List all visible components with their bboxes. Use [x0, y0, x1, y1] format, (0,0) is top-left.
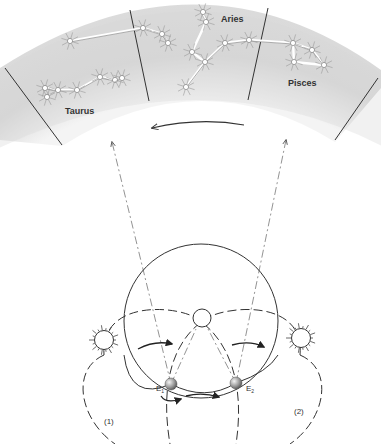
motion-arrow-right	[232, 343, 264, 347]
earth-orbit-2	[167, 309, 301, 444]
motion-arrow-e1	[161, 396, 181, 401]
retrograde-motion-arrow	[152, 122, 244, 128]
orbit-label-2: (2)	[294, 407, 304, 416]
sight-line-e2	[236, 140, 286, 383]
motion-arrow-left	[138, 343, 172, 349]
label-e1: E1	[156, 384, 164, 394]
retrograde-diagram: Taurus Aries Pisces E1 E2 (1) (2)	[0, 0, 381, 444]
constellation-label-pisces: Pisces	[288, 78, 317, 88]
sight-lines	[112, 140, 286, 384]
orbit-1-outer	[83, 355, 115, 444]
earth-e1	[165, 378, 177, 390]
earth-path	[124, 355, 278, 393]
earth-orbits	[83, 309, 322, 444]
constellation-label-taurus: Taurus	[65, 106, 94, 116]
orbit-label-1: (1)	[104, 417, 114, 426]
label-e2: E2	[246, 384, 254, 394]
constellation-label-aries: Aries	[221, 14, 244, 24]
orbit-2-outer	[290, 355, 322, 444]
earth-e2	[230, 377, 242, 389]
planet	[193, 309, 211, 327]
